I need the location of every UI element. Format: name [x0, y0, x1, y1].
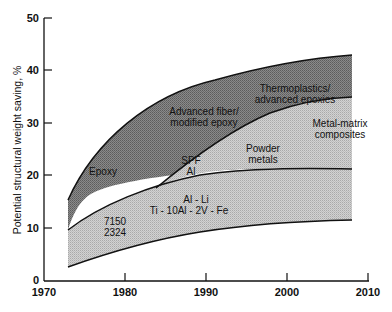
y-tick-label: 40	[27, 64, 39, 76]
y-tick-label: 0	[33, 274, 39, 286]
x-tick-label: 1990	[194, 286, 218, 298]
label-metal-matrix: Metal-matrix	[312, 118, 367, 129]
label-advanced-fiber: Advanced fiber/	[169, 106, 239, 117]
x-tick-label: 2000	[275, 286, 299, 298]
weight-saving-chart: 50 40 30 20 10 0 1970 1980 1990 2000 201…	[0, 0, 392, 312]
x-tick-label: 2010	[356, 286, 380, 298]
label-2324: 2324	[104, 227, 127, 238]
label-7150: 7150	[104, 216, 127, 227]
y-ticks	[44, 18, 52, 228]
x-tick-label: 1970	[32, 286, 56, 298]
x-tick-label: 1980	[113, 286, 137, 298]
y-axis-title: Potential structural weight saving, %	[11, 66, 23, 235]
label-powder-metals: Powder	[246, 143, 281, 154]
label-spf: SPF	[181, 155, 200, 166]
label-ti-alloy: Ti - 10Al - 2V - Fe	[150, 205, 229, 216]
y-tick-label: 30	[27, 117, 39, 129]
label-advanced-fiber: modified epoxy	[170, 117, 237, 128]
y-tick-label: 20	[27, 169, 39, 181]
label-thermoplastics: Thermoplastics/	[260, 83, 331, 94]
y-tick-label: 50	[27, 12, 39, 24]
label-thermoplastics: advanced epoxies	[255, 94, 336, 105]
y-tick-label: 10	[27, 222, 39, 234]
label-powder-metals: metals	[248, 154, 277, 165]
label-epoxy: Epoxy	[89, 166, 117, 177]
label-spf: Al	[187, 166, 196, 177]
label-metal-matrix: composites	[315, 129, 366, 140]
label-al-li: Al - Li	[183, 194, 209, 205]
x-ticks	[125, 273, 368, 281]
